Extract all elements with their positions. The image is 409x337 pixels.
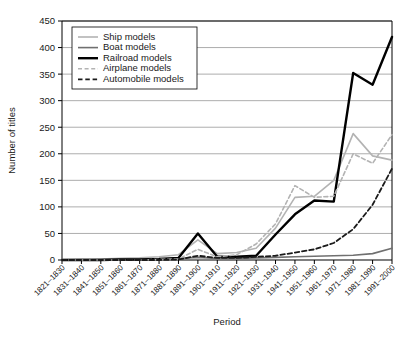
series-line-ship-models: [62, 134, 392, 260]
y-tick-label: 50: [44, 228, 55, 239]
y-tick-label: 150: [39, 175, 55, 186]
series-line-automobile-models: [62, 169, 392, 260]
y-axis-title: Number of titles: [6, 107, 17, 174]
legend-label: Railroad models: [103, 52, 172, 63]
chart-legend: Ship modelsBoat modelsRailroad modelsAir…: [72, 27, 197, 89]
y-tick-label: 300: [39, 95, 55, 106]
y-tick-label: 450: [39, 15, 55, 26]
y-tick-label: 0: [50, 254, 55, 265]
legend-label: Airplane models: [103, 62, 171, 73]
legend-label: Ship models: [103, 31, 156, 42]
y-tick-label: 100: [39, 201, 55, 212]
line-chart: 050100150200250300350400450 1821–1830183…: [0, 0, 409, 337]
y-tick-label: 250: [39, 122, 55, 133]
y-tick-label: 200: [39, 148, 55, 159]
legend-label: Boat models: [103, 41, 156, 52]
x-axis-title: Period: [213, 316, 240, 327]
y-tick-label: 400: [39, 42, 55, 53]
y-axis-ticks: 050100150200250300350400450: [39, 15, 62, 265]
x-axis-ticks: 1821–18301831–18401841–18501851–18601861…: [32, 260, 397, 298]
legend-label: Automobile models: [103, 73, 184, 84]
chart-figure: 050100150200250300350400450 1821–1830183…: [0, 0, 409, 337]
y-tick-label: 350: [39, 69, 55, 80]
